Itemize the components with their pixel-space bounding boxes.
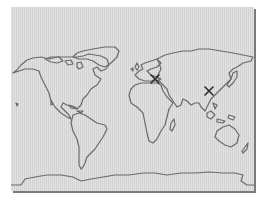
british-isles-outline <box>131 63 139 71</box>
africa-outline <box>129 83 173 143</box>
southeast-asia-islands-outline <box>207 103 235 123</box>
world-map <box>11 7 254 191</box>
marker-east-asia <box>205 87 213 95</box>
australia-outline <box>215 125 239 147</box>
new-zealand-outline <box>242 143 248 153</box>
antarctica-outline <box>11 172 254 185</box>
north-america-outline <box>13 54 109 119</box>
japan-outline <box>227 71 237 87</box>
south-america-outline <box>71 113 107 169</box>
hawaii-outline <box>16 103 18 106</box>
world-map-outline <box>11 7 254 191</box>
madagascar-outline <box>170 119 175 131</box>
caribbean-outline <box>51 100 83 113</box>
